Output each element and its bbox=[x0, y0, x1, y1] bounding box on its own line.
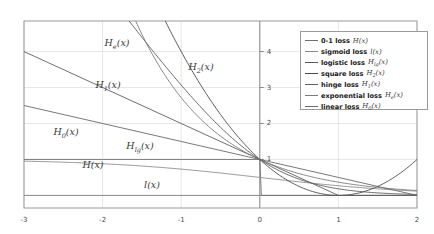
legend-item-symbol: H1(x) bbox=[362, 80, 380, 89]
x-tick-label: -1 bbox=[178, 216, 185, 224]
legend-line-swatch bbox=[305, 84, 318, 85]
legend-item: logistic lossHlg(x) bbox=[305, 57, 423, 68]
x-tick-label: 0 bbox=[258, 216, 262, 224]
legend-item: hinge lossH1(x) bbox=[305, 79, 423, 90]
x-tick-label: -3 bbox=[21, 216, 28, 224]
curve-annotation: Hlg(x) bbox=[126, 140, 153, 154]
y-tick-label: 4 bbox=[267, 48, 271, 56]
curve-annotation: H(x) bbox=[82, 159, 103, 170]
y-tick-label: 2 bbox=[267, 119, 271, 127]
legend-item-symbol: Hlg(x) bbox=[368, 58, 388, 67]
curve-annotation: H0(x) bbox=[53, 126, 78, 140]
legend-item-symbol: H(x) bbox=[353, 37, 368, 45]
legend-item-label: hinge loss bbox=[321, 81, 359, 89]
legend-item: linear lossH0(x) bbox=[305, 101, 423, 112]
tick-marks bbox=[260, 52, 264, 160]
legend-line-swatch bbox=[305, 106, 318, 107]
x-tick-label: 1 bbox=[336, 216, 340, 224]
legend-item-label: square loss bbox=[321, 70, 363, 78]
legend: 0-1 lossH(x)sigmoid lossl(x)logistic los… bbox=[300, 31, 428, 110]
curve-linear-loss bbox=[24, 106, 417, 196]
curve-annotation: H1(x) bbox=[95, 79, 120, 93]
legend-line-swatch bbox=[305, 73, 318, 74]
legend-item: square lossH2(x) bbox=[305, 68, 423, 79]
curve-annotation: H2(x) bbox=[188, 61, 213, 75]
legend-line-swatch bbox=[305, 95, 318, 96]
legend-item-label: logistic loss bbox=[321, 59, 365, 67]
curve-annotation: He(x) bbox=[105, 37, 130, 51]
chart-container: -3-2-1012 1234 He(x)H2(x)H1(x)H0(x)Hlg(x… bbox=[0, 0, 434, 234]
y-tick-label: 3 bbox=[267, 84, 271, 92]
legend-item: 0-1 lossH(x) bbox=[305, 35, 423, 46]
legend-item: sigmoid lossl(x) bbox=[305, 46, 423, 57]
legend-item-label: sigmoid loss bbox=[321, 48, 367, 56]
legend-item-label: exponential loss bbox=[321, 92, 382, 100]
legend-line-swatch bbox=[305, 62, 318, 63]
legend-item-label: 0-1 loss bbox=[321, 37, 350, 45]
legend-item-symbol: l(x) bbox=[370, 48, 381, 56]
legend-item: exponential lossHe(x) bbox=[305, 90, 423, 101]
y-tick-label: 1 bbox=[267, 155, 271, 163]
legend-item-symbol: He(x) bbox=[385, 91, 403, 100]
x-tick-label: 2 bbox=[415, 216, 419, 224]
curve-annotation: l(x) bbox=[144, 179, 160, 190]
legend-item-symbol: H0(x) bbox=[362, 102, 380, 111]
legend-item-symbol: H2(x) bbox=[366, 69, 384, 78]
x-tick-label: -2 bbox=[99, 216, 106, 224]
legend-item-label: linear loss bbox=[321, 103, 359, 111]
legend-line-swatch bbox=[305, 51, 318, 52]
legend-line-swatch bbox=[305, 40, 318, 41]
